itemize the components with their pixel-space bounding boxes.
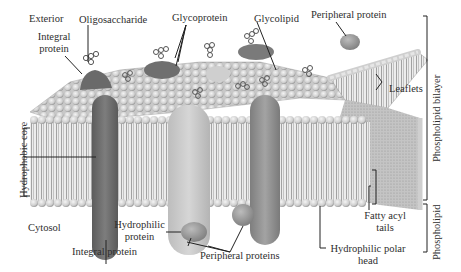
leaflets-label: Leaflets bbox=[389, 83, 423, 95]
peripheral-protein-lower-right bbox=[232, 204, 254, 226]
cytosol-label: Cytosol bbox=[28, 222, 61, 234]
fatty-acyl-tails-label-line2: tails bbox=[355, 222, 415, 234]
exterior-label: Exterior bbox=[29, 13, 63, 25]
integral-protein-top-label-line2: protein bbox=[34, 43, 74, 55]
glycolipid-label: Glycolipid bbox=[254, 13, 299, 25]
fatty-acyl-tails-label-line1: Fatty acyl bbox=[355, 210, 415, 222]
integral-protein-bottom-label: Integral protein bbox=[72, 246, 137, 258]
peripheral-protein-top bbox=[340, 34, 360, 50]
oligosaccharide-label: Oligosaccharide bbox=[79, 14, 147, 26]
hydrophilic-polar-head-label-line1: Hydrophilic polar bbox=[318, 243, 418, 255]
glycoprotein-body bbox=[144, 61, 180, 79]
hydrophilic-protein-label-line1: Hydrophilic bbox=[112, 219, 167, 231]
membrane-diagram: Exterior Oligosaccharide Glycoprotein Gl… bbox=[0, 0, 461, 272]
hydrophobic-core-label: Hydrophobic core bbox=[18, 122, 29, 198]
peripheral-protein-top-label: Peripheral protein bbox=[311, 9, 387, 21]
peripheral-proteins-label: Peripheral proteins bbox=[200, 250, 280, 262]
phospholipid-bilayer-label: Phospholipid bilayer bbox=[431, 75, 442, 162]
peripheral-light-blob bbox=[206, 66, 230, 82]
hydrophilic-protein-label-line2: protein bbox=[112, 231, 167, 243]
integral-protein-mid bbox=[250, 95, 280, 245]
peripheral-protein-lower-left bbox=[181, 222, 207, 242]
integral-protein-top-label-line1: Integral bbox=[34, 31, 74, 43]
hydrophilic-polar-head-label-line2: head bbox=[318, 255, 418, 267]
phospholipid-label: Phospholipid bbox=[431, 205, 442, 260]
glycoprotein-label: Glycoprotein bbox=[172, 12, 227, 24]
